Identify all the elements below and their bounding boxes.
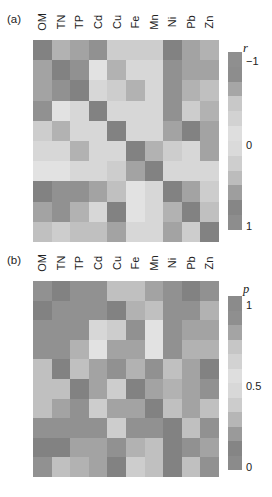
colorbar-segment: [228, 156, 242, 171]
heatmap-cell: [145, 222, 164, 242]
heatmap-cell: [145, 40, 164, 60]
heatmap-cell: [182, 281, 201, 301]
heatmap-cell: [126, 121, 145, 141]
heatmap-cell: [107, 40, 126, 60]
heatmap-cell: [52, 222, 71, 242]
heatmap-cell: [52, 438, 71, 458]
heatmap-cell: [52, 121, 71, 141]
heatmap-cell: [145, 60, 164, 80]
heatmap-cell: [33, 359, 52, 379]
heatmap-cell: [145, 320, 164, 340]
heatmap-cell: [163, 222, 182, 242]
heatmap-cell: [89, 301, 108, 321]
panel-b-colorbar: [228, 296, 242, 470]
heatmap-cell: [163, 301, 182, 321]
heatmap-cell: [126, 202, 145, 222]
heatmap-cell: [145, 161, 164, 181]
heatmap-cell: [52, 80, 71, 100]
panel-b-heatmap: [33, 281, 219, 477]
heatmap-cell: [182, 202, 201, 222]
heatmap-cell: [126, 457, 145, 477]
heatmap-cell: [89, 281, 108, 301]
colorbar-segment: [228, 126, 242, 141]
heatmap-cell: [107, 320, 126, 340]
heatmap-cell: [200, 161, 219, 181]
heatmap-cell: [163, 181, 182, 201]
heatmap-cell: [182, 457, 201, 477]
heatmap-cell: [52, 457, 71, 477]
heatmap-cell: [89, 60, 108, 80]
heatmap-cell: [126, 379, 145, 399]
heatmap-cell: [70, 399, 89, 419]
column-label: Fe: [126, 246, 145, 279]
colorbar-segment: [228, 311, 242, 326]
colorbar-segment: [228, 96, 242, 111]
colorbar-segment: [228, 398, 242, 413]
column-label: Pb: [182, 246, 201, 279]
heatmap-cell: [89, 320, 108, 340]
column-label: Pb: [182, 5, 201, 38]
heatmap-cell: [70, 359, 89, 379]
heatmap-cell: [70, 60, 89, 80]
heatmap-cell: [89, 222, 108, 242]
colorbar-segment: [228, 200, 242, 215]
heatmap-cell: [33, 301, 52, 321]
heatmap-cell: [200, 40, 219, 60]
heatmap-cell: [145, 80, 164, 100]
heatmap-cell: [163, 438, 182, 458]
heatmap-cell: [52, 301, 71, 321]
heatmap-cell: [52, 202, 71, 222]
heatmap-cell: [163, 80, 182, 100]
heatmap-cell: [163, 359, 182, 379]
heatmap-cell: [70, 161, 89, 181]
colorbar-segment: [228, 215, 242, 230]
colorbar-tick-label: 1: [246, 299, 252, 311]
heatmap-cell: [163, 161, 182, 181]
colorbar-segment: [228, 185, 242, 200]
heatmap-cell: [107, 418, 126, 438]
heatmap-cell: [107, 161, 126, 181]
heatmap-cell: [126, 399, 145, 419]
heatmap-cell: [33, 202, 52, 222]
heatmap-cell: [126, 418, 145, 438]
heatmap-cell: [126, 161, 145, 181]
column-label: Ni: [163, 246, 182, 279]
heatmap-cell: [70, 438, 89, 458]
heatmap-cell: [107, 438, 126, 458]
heatmap-cell: [200, 202, 219, 222]
colorbar-segment: [228, 141, 242, 156]
heatmap-cell: [107, 202, 126, 222]
heatmap-cell: [145, 101, 164, 121]
heatmap-cell: [70, 457, 89, 477]
heatmap-cell: [89, 141, 108, 161]
colorbar-segment: [228, 354, 242, 369]
heatmap-cell: [70, 121, 89, 141]
heatmap-cell: [126, 181, 145, 201]
heatmap-cell: [200, 141, 219, 161]
heatmap-cell: [163, 60, 182, 80]
column-label: Mn: [145, 5, 164, 38]
heatmap-cell: [126, 359, 145, 379]
figure-correlation-heatmaps: (a) OMTNTPCdCuFeMnNiPbZn r −101 (b) OMTN…: [0, 0, 272, 497]
heatmap-cell: [200, 320, 219, 340]
heatmap-cell: [200, 379, 219, 399]
column-label: TN: [52, 5, 71, 38]
heatmap-cell: [89, 121, 108, 141]
heatmap-cell: [145, 121, 164, 141]
heatmap-cell: [145, 340, 164, 360]
heatmap-cell: [163, 457, 182, 477]
heatmap-cell: [200, 101, 219, 121]
heatmap-cell: [145, 457, 164, 477]
heatmap-cell: [182, 438, 201, 458]
colorbar-segment: [228, 67, 242, 82]
heatmap-cell: [182, 101, 201, 121]
heatmap-cell: [126, 301, 145, 321]
colorbar-segment: [228, 456, 242, 471]
heatmap-cell: [107, 181, 126, 201]
heatmap-cell: [107, 301, 126, 321]
heatmap-cell: [145, 399, 164, 419]
heatmap-cell: [89, 40, 108, 60]
heatmap-cell: [89, 379, 108, 399]
colorbar-segment: [228, 171, 242, 186]
heatmap-cell: [126, 141, 145, 161]
